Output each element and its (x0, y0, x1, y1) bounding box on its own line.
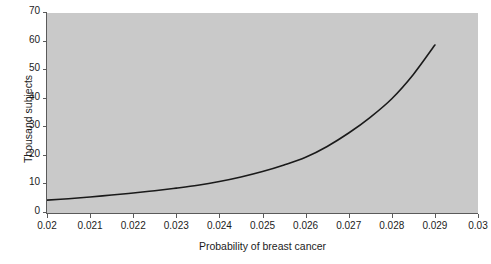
x-tick-label: 0.025 (250, 221, 275, 231)
x-tick-mark (47, 214, 48, 218)
x-tick-label: 0.026 (293, 221, 318, 231)
x-tick-label: 0.022 (121, 221, 146, 231)
x-tick-label: 0.024 (207, 221, 232, 231)
plot-area (47, 13, 478, 213)
x-tick-mark (349, 214, 350, 218)
y-tick-mark (43, 212, 47, 213)
y-tick-label: 0 (34, 206, 40, 216)
y-tick-mark (43, 126, 47, 127)
y-tick-mark (43, 12, 47, 13)
x-tick-mark (219, 214, 220, 218)
x-tick-mark (478, 214, 479, 218)
series-line-sample-size (47, 45, 435, 200)
y-tick-label: 70 (29, 6, 40, 16)
x-tick-label: 0.021 (78, 221, 103, 231)
x-tick-label: 0.027 (336, 221, 361, 231)
x-tick-label: 0.028 (379, 221, 404, 231)
y-tick-mark (43, 98, 47, 99)
x-tick-mark (176, 214, 177, 218)
x-tick-label: 0.023 (164, 221, 189, 231)
x-tick-mark (306, 214, 307, 218)
y-tick-mark (43, 183, 47, 184)
chart-figure: 010203040506070 0.020.0210.0220.0230.024… (0, 0, 491, 264)
y-tick-mark (43, 155, 47, 156)
x-tick-mark (90, 214, 91, 218)
x-tick-label: 0.02 (37, 221, 56, 231)
x-tick-mark (263, 214, 264, 218)
x-tick-mark (392, 214, 393, 218)
y-axis-title: Thousand subjects (22, 39, 34, 199)
x-tick-label: 0.029 (422, 221, 447, 231)
y-tick-mark (43, 69, 47, 70)
x-axis-title: Probability of breast cancer (47, 240, 478, 252)
x-tick-label: 0.03 (468, 221, 487, 231)
x-tick-mark (435, 214, 436, 218)
y-tick-mark (43, 41, 47, 42)
x-tick-mark (133, 214, 134, 218)
data-curve-svg (47, 13, 478, 213)
